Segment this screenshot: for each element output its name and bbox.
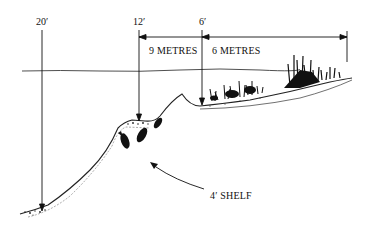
bush-clumps <box>210 86 256 101</box>
shelf-callout-leader <box>156 167 204 189</box>
depth-label-20ft: 20′ <box>36 17 48 27</box>
diagram-drawing <box>0 0 369 237</box>
fish-group <box>118 116 164 150</box>
distance-label-6m: 6 METRES <box>212 46 261 56</box>
lake-bed-profile <box>20 78 352 214</box>
depth-label-12ft: 12′ <box>133 17 145 27</box>
distance-label-9m: 9 METRES <box>149 46 198 56</box>
fish-icon <box>135 126 150 144</box>
depth-label-6ft: 6′ <box>199 17 206 27</box>
lake-bed-underline <box>28 127 150 217</box>
lake-profile-diagram: 20′ 12′ 6′ 9 METRES 6 METRES 4′ SHELF <box>0 0 369 237</box>
water-surface-line <box>22 69 300 71</box>
shelf-callout-label: 4′ SHELF <box>210 191 252 201</box>
depth-arrows <box>40 30 205 211</box>
